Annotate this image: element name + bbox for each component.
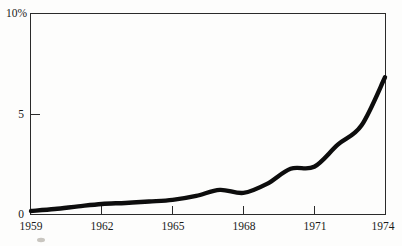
y-tick-label-10: 10% — [6, 7, 28, 19]
x-tick-label-1962: 1962 — [91, 220, 114, 232]
y-tick-label-0: 0 — [18, 208, 24, 220]
x-tick-label-1974: 1974 — [372, 220, 395, 232]
chart-container: 10% 5 0 1959 1962 1965 1968 1971 1974 — [0, 0, 402, 246]
x-tick-label-1971: 1971 — [304, 220, 327, 232]
x-tick-label-1968: 1968 — [233, 220, 256, 232]
data-series-line — [31, 77, 385, 211]
x-tick-label-1959: 1959 — [20, 220, 43, 232]
x-tick-label-1965: 1965 — [162, 220, 185, 232]
plot-frame-top-left — [31, 14, 386, 215]
y-tick-label-5: 5 — [18, 108, 24, 120]
line-chart: 10% 5 0 1959 1962 1965 1968 1971 1974 — [0, 0, 402, 246]
scan-artifact-speck — [37, 238, 45, 242]
